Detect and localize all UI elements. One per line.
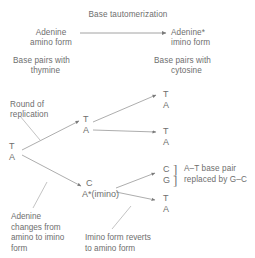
progeny2-bottom-base: A [163,137,169,147]
outcome-note-line2: replaced by G–C [184,175,247,185]
progeny1-arrow [93,95,156,122]
progeny3-bottom-base: G [163,175,170,185]
amino-note-leader [33,182,47,208]
left-pairing-line1: Base pairs with [13,56,70,66]
right-species-line1: Adenine* [171,28,205,38]
replication-label-line1: Round of [10,100,44,110]
right-species-line2: imino form [171,38,210,48]
progeny4-bottom-base: A [163,204,169,214]
progeny4-arrow [116,192,155,200]
left-pairing-line2: thymine [13,66,78,76]
replication-label-line2: replication [10,110,48,120]
left-species-line2: amino form [16,38,86,48]
progeny3-arrow [116,173,155,188]
progeny1-bottom-base: A [163,100,169,110]
fork-duplex-bottom-base: A [83,125,89,135]
replication-arrow-upper [22,121,79,150]
figure-canvas: Base tautomerization Adenine amino form … [0,0,255,258]
figure-title: Base tautomerization [68,10,188,20]
mutant-duplex-top-base: C [86,178,93,188]
progeny2-top-base: T [163,126,169,136]
right-pairing-line2: cytosine [154,66,219,76]
progeny3-top-base: C [163,164,170,174]
replication-arrow-lower [22,155,81,186]
parent-duplex-bottom-base: A [9,152,15,162]
progeny2-arrow [93,130,156,132]
amino-to-imino-note: Adenine changes from amino to imino form [11,212,73,254]
left-species-line1: Adenine [16,28,86,38]
imino-note-leader [112,206,131,229]
progeny1-top-base: T [163,89,169,99]
imino-reverts-note: Imino form reverts to amino form [85,233,151,254]
fork-duplex-top-base: T [83,114,89,124]
mutant-duplex-bottom-base: A*(imino) [82,189,119,199]
right-pairing-line1: Base pairs with [154,56,211,66]
outcome-note-line1: A–T base pair [184,164,236,174]
progeny4-top-base: T [163,193,169,203]
parent-duplex-top-base: T [9,141,15,151]
bracket-bottom: ] [173,174,177,187]
